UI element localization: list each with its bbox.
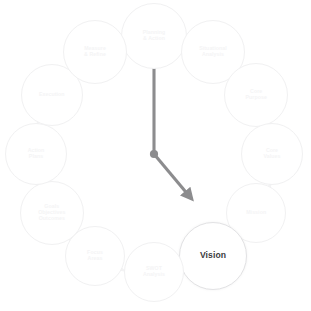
node-label-swot-analysis: SWOT Analysis (143, 266, 165, 278)
node-label-goals-objectives: Goals Objectives Outcomes (38, 204, 65, 221)
node-label-core-values: Core Values (263, 148, 280, 160)
node-swot-analysis[interactable]: SWOT Analysis (124, 242, 184, 302)
node-label-measure-refine: Measure & Refine (84, 46, 106, 58)
node-goals-objectives[interactable]: Goals Objectives Outcomes (20, 181, 84, 245)
node-label-core-purpose: Core Purpose (245, 89, 266, 101)
node-measure-refine[interactable]: Measure & Refine (63, 20, 127, 84)
node-label-situational-analysis: Situational Analysis (199, 46, 227, 58)
center-pivot-dot (150, 150, 158, 158)
node-label-planning-action: Planning & Action (143, 30, 166, 42)
node-core-values[interactable]: Core Values (241, 123, 303, 185)
node-core-purpose[interactable]: Core Purpose (224, 63, 288, 127)
node-label-vision: Vision (200, 251, 226, 261)
node-vision[interactable]: Vision (179, 222, 247, 290)
node-action-plans[interactable]: Action Plans (5, 123, 67, 185)
diagram-canvas: Planning & ActionSituational AnalysisCor… (0, 0, 311, 311)
node-label-execution: Execution (39, 92, 65, 98)
pointer-arrow-group (154, 51, 191, 198)
node-label-mission: Mission (246, 210, 266, 216)
pointer-down-right[interactable] (154, 154, 191, 198)
node-label-focus-areas: Focus Areas (87, 250, 103, 262)
node-label-action-plans: Action Plans (28, 148, 45, 160)
node-planning-action[interactable]: Planning & Action (121, 3, 187, 69)
